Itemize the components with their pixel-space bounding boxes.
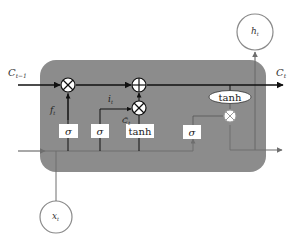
c-prev-label: Ct−1 xyxy=(8,67,27,79)
svg-text:σ: σ xyxy=(189,127,197,138)
tanh-ellipse: tanh xyxy=(209,91,251,104)
lstm-diagram: tanh σ σ tanh σ Ct−1 Ct ht xt ft it C̃t xyxy=(0,0,294,243)
svg-text:tanh: tanh xyxy=(129,126,152,137)
input-gate: σ xyxy=(91,124,109,138)
candidate-gate: tanh xyxy=(126,124,154,138)
output-gate: σ xyxy=(183,125,201,139)
c-next-label: Ct xyxy=(276,67,287,79)
forget-multiply-node xyxy=(61,78,75,92)
forget-gate: σ xyxy=(59,124,78,138)
add-node xyxy=(132,78,146,92)
svg-text:tanh: tanh xyxy=(219,92,242,103)
svg-text:σ: σ xyxy=(97,126,105,137)
output-multiply-node xyxy=(224,110,236,122)
input-multiply-node xyxy=(132,101,146,115)
svg-text:σ: σ xyxy=(65,126,73,137)
